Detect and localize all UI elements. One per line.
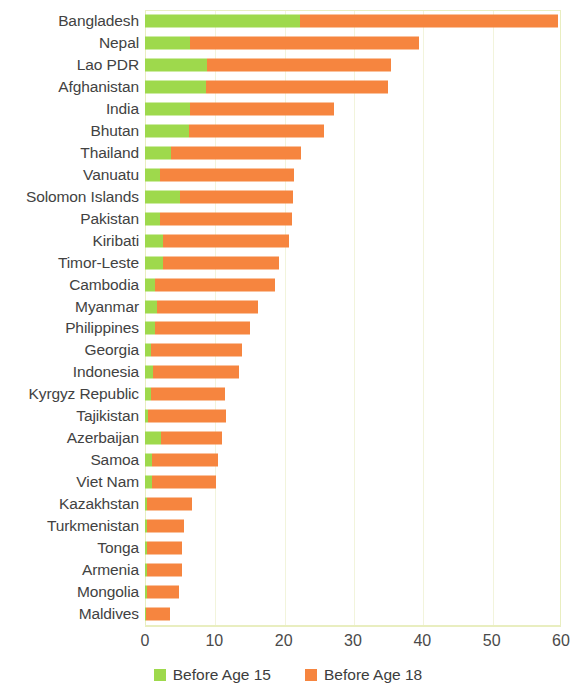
category-label: Nepal — [99, 35, 139, 51]
bar-segment-before-age-15 — [145, 542, 147, 555]
bar-track — [145, 14, 561, 27]
category-label: Kyrgyz Republic — [29, 387, 140, 403]
bar-row: Armenia — [0, 559, 576, 581]
bar-track — [145, 168, 561, 181]
category-label: Lao PDR — [77, 57, 139, 73]
bar-segment-before-age-18 — [147, 564, 182, 577]
bar-row: Georgia — [0, 339, 576, 361]
category-label: Tajikistan — [76, 409, 139, 425]
bar-track — [145, 344, 561, 357]
bar-track — [145, 36, 561, 49]
bar-track — [145, 58, 561, 71]
bar-segment-before-age-15 — [145, 564, 147, 577]
x-tick-label: 50 — [483, 630, 501, 652]
x-tick-label: 30 — [344, 630, 362, 652]
bar-segment-before-age-18 — [155, 278, 275, 291]
bar-segment-before-age-15 — [145, 14, 300, 27]
bar-track — [145, 476, 561, 489]
x-tick-label: 40 — [413, 630, 431, 652]
bar-segment-before-age-18 — [151, 388, 225, 401]
bar-segment-before-age-18 — [148, 410, 226, 423]
bar-segment-before-age-18 — [147, 542, 182, 555]
bar-segment-before-age-18 — [147, 520, 184, 533]
bar-segment-before-age-15 — [145, 586, 147, 599]
bar-segment-before-age-18 — [207, 58, 391, 71]
category-label: India — [106, 101, 139, 117]
category-label: Maldives — [79, 606, 139, 622]
bar-segment-before-age-18 — [190, 36, 419, 49]
category-label: Thailand — [80, 145, 139, 161]
category-label: Indonesia — [73, 365, 139, 381]
bar-segment-before-age-15 — [145, 212, 160, 225]
bar-segment-before-age-18 — [206, 80, 388, 93]
x-tick-label: 0 — [141, 630, 150, 652]
bar-row: Cambodia — [0, 274, 576, 296]
bar-track — [145, 146, 561, 159]
bar-track — [145, 432, 561, 445]
bar-row: Kiribati — [0, 230, 576, 252]
bar-segment-before-age-15 — [145, 322, 155, 335]
bar-track — [145, 586, 561, 599]
bar-segment-before-age-15 — [145, 432, 161, 445]
category-label: Bhutan — [90, 123, 139, 139]
bar-segment-before-age-18 — [171, 146, 301, 159]
x-axis-line — [145, 625, 561, 627]
bar-segment-before-age-15 — [145, 498, 147, 511]
bar-segment-before-age-18 — [163, 234, 289, 247]
bar-track — [145, 498, 561, 511]
legend-label: Before Age 18 — [324, 667, 422, 683]
bar-track — [145, 102, 561, 115]
bar-segment-before-age-15 — [145, 102, 190, 115]
bar-track — [145, 234, 561, 247]
category-label: Georgia — [85, 343, 139, 359]
bar-segment-before-age-15 — [145, 190, 180, 203]
bar-segment-before-age-18 — [157, 300, 258, 313]
legend-item: Before Age 15 — [154, 667, 271, 683]
bar-row: Tonga — [0, 537, 576, 559]
legend-label: Before Age 15 — [173, 667, 271, 683]
bar-track — [145, 256, 561, 269]
bar-track — [145, 124, 561, 137]
bar-row: Thailand — [0, 142, 576, 164]
bar-segment-before-age-18 — [153, 366, 239, 379]
x-tick-label: 60 — [552, 630, 570, 652]
bar-track — [145, 410, 561, 423]
x-axis-tick-labels: 0102030405060 — [0, 630, 576, 654]
bar-segment-before-age-15 — [145, 388, 151, 401]
bar-row: Mongolia — [0, 581, 576, 603]
bar-segment-before-age-15 — [145, 520, 147, 533]
category-label: Turkmenistan — [47, 518, 139, 534]
bar-segment-before-age-18 — [152, 454, 218, 467]
bar-segment-before-age-15 — [145, 58, 207, 71]
legend-swatch — [305, 669, 317, 681]
bar-row: Samoa — [0, 449, 576, 471]
bar-segment-before-age-18 — [300, 14, 558, 27]
bar-segment-before-age-18 — [160, 168, 295, 181]
bar-row: Viet Nam — [0, 471, 576, 493]
bar-row: Tajikistan — [0, 405, 576, 427]
bar-track — [145, 212, 561, 225]
bar-track — [145, 564, 561, 577]
bar-track — [145, 80, 561, 93]
bar-row: Kazakhstan — [0, 493, 576, 515]
bar-segment-before-age-18 — [151, 344, 242, 357]
bar-track — [145, 608, 561, 621]
bar-segment-before-age-18 — [146, 608, 170, 621]
bar-segment-before-age-15 — [145, 476, 152, 489]
category-label: Viet Nam — [76, 474, 139, 490]
bar-segment-before-age-18 — [160, 212, 292, 225]
category-label: Timor-Leste — [58, 255, 139, 271]
bar-segment-before-age-15 — [145, 366, 153, 379]
bar-track — [145, 454, 561, 467]
bar-row: Nepal — [0, 32, 576, 54]
bar-track — [145, 388, 561, 401]
bar-segment-before-age-18 — [147, 498, 192, 511]
bar-segment-before-age-18 — [189, 124, 324, 137]
bar-segment-before-age-15 — [145, 608, 146, 621]
bar-segment-before-age-15 — [145, 168, 160, 181]
bar-row: Vanuatu — [0, 164, 576, 186]
category-label: Samoa — [90, 453, 139, 469]
bar-row: Azerbaijan — [0, 427, 576, 449]
bar-track — [145, 190, 561, 203]
chart-legend: Before Age 15Before Age 18 — [0, 664, 576, 686]
